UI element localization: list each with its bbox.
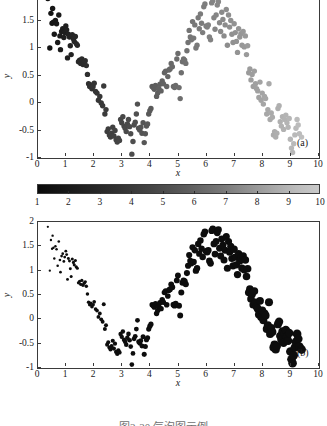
panel-a: 012345678910 -1-0.500.511.52 x y (a) <box>0 0 327 180</box>
x-tick-label: 7 <box>231 369 236 379</box>
x-tick-label: 6 <box>203 159 208 169</box>
panel-a-plot-area <box>37 0 320 159</box>
x-tick-label: 2 <box>91 369 96 379</box>
colorbar-tick-label: 2 <box>66 197 71 207</box>
x-tick-label: 9 <box>288 369 293 379</box>
y-tick-label: -1 <box>13 362 34 372</box>
panel-b-plot-area <box>37 221 320 369</box>
colorbar-tick-mark <box>131 191 132 194</box>
colorbar-tick-label: 6 <box>192 197 197 207</box>
x-tick-mark <box>234 363 235 366</box>
colorbar-tick-label: 10 <box>315 197 325 207</box>
panel-b-x-axis-title: x <box>176 377 180 388</box>
y-tick-label: 0 <box>13 97 34 107</box>
x-tick-mark <box>37 363 38 366</box>
x-tick-label: 10 <box>313 159 323 169</box>
y-tick-label: -0.5 <box>13 125 34 135</box>
x-tick-mark <box>178 153 179 156</box>
x-tick-mark <box>65 363 66 366</box>
colorbar-gradient <box>37 184 320 194</box>
x-tick-mark <box>93 363 94 366</box>
bubble-chart-figure: 012345678910 -1-0.500.511.52 x y (a) 123… <box>0 0 327 426</box>
figure-caption: 图2-20 气泡图示例 <box>0 418 327 426</box>
colorbar-tick-mark <box>163 191 164 194</box>
y-tick-label: 1 <box>13 42 34 52</box>
x-tick-mark <box>37 153 38 156</box>
y-tick-mark <box>38 343 41 344</box>
x-tick-mark <box>318 363 319 366</box>
x-tick-label: 2 <box>91 159 96 169</box>
y-tick-mark <box>38 294 41 295</box>
panel-b: 012345678910 -1-0.500.511.52 x y (b) <box>0 210 327 390</box>
x-tick-label: 0 <box>35 159 40 169</box>
x-tick-label: 3 <box>119 369 124 379</box>
y-tick-mark <box>38 47 41 48</box>
colorbar-tick-mark <box>226 191 227 194</box>
colorbar-tick-label: 9 <box>286 197 291 207</box>
x-tick-mark <box>149 363 150 366</box>
x-tick-mark <box>149 153 150 156</box>
x-tick-label: 1 <box>63 159 68 169</box>
colorbar-tick-mark <box>257 191 258 194</box>
y-tick-label: 1 <box>13 265 34 275</box>
x-tick-label: 10 <box>313 369 323 379</box>
x-tick-label: 6 <box>203 369 208 379</box>
panel-a-scatter-layer <box>38 0 319 158</box>
y-tick-label: 0 <box>13 313 34 323</box>
x-tick-mark <box>65 153 66 156</box>
x-tick-mark <box>206 363 207 366</box>
y-tick-mark <box>38 318 41 319</box>
x-tick-mark <box>121 363 122 366</box>
y-tick-mark <box>38 130 41 131</box>
x-tick-label: 4 <box>147 159 152 169</box>
x-tick-mark <box>262 363 263 366</box>
y-tick-label: -0.5 <box>13 338 34 348</box>
x-tick-mark <box>93 153 94 156</box>
x-tick-mark <box>318 153 319 156</box>
x-tick-mark <box>121 153 122 156</box>
x-tick-mark <box>290 363 291 366</box>
colorbar-tick-mark <box>68 191 69 194</box>
x-tick-label: 8 <box>259 369 264 379</box>
y-tick-mark <box>38 367 41 368</box>
x-tick-mark <box>262 153 263 156</box>
x-tick-mark <box>206 153 207 156</box>
colorbar-group: 12345678910 <box>0 180 327 210</box>
y-tick-mark <box>38 270 41 271</box>
x-tick-label: 1 <box>63 369 68 379</box>
x-tick-label: 4 <box>147 369 152 379</box>
y-tick-mark <box>38 245 41 246</box>
x-tick-mark <box>290 153 291 156</box>
y-tick-mark <box>38 75 41 76</box>
colorbar-tick-mark <box>100 191 101 194</box>
x-tick-mark <box>234 153 235 156</box>
colorbar-tick-label: 8 <box>255 197 260 207</box>
y-tick-mark <box>38 221 41 222</box>
x-tick-label: 3 <box>119 159 124 169</box>
x-tick-label: 8 <box>259 159 264 169</box>
colorbar-tick-label: 7 <box>223 197 228 207</box>
x-tick-label: 9 <box>288 159 293 169</box>
colorbar-tick-label: 5 <box>160 197 165 207</box>
y-tick-label: 0.5 <box>13 289 34 299</box>
y-tick-label: 2 <box>13 216 34 226</box>
y-tick-mark <box>38 102 41 103</box>
panel-a-x-axis-title: x <box>176 167 180 178</box>
panel-b-label: (b) <box>297 347 309 358</box>
colorbar-tick-label: 1 <box>35 197 40 207</box>
panel-a-label: (a) <box>297 137 308 148</box>
colorbar-tick-label: 4 <box>129 197 134 207</box>
colorbar-tick-mark <box>194 191 195 194</box>
y-tick-label: -1 <box>13 152 34 162</box>
panel-a-y-axis-title: y <box>1 70 12 82</box>
x-tick-label: 7 <box>231 159 236 169</box>
y-tick-label: 1.5 <box>13 15 34 25</box>
x-tick-label: 0 <box>35 369 40 379</box>
panel-b-y-axis-title: y <box>1 289 12 301</box>
y-tick-label: 0.5 <box>13 70 34 80</box>
y-tick-label: 1.5 <box>13 240 34 250</box>
colorbar-tick-mark <box>289 191 290 194</box>
panel-b-scatter-layer <box>38 222 319 368</box>
y-tick-mark <box>38 157 41 158</box>
colorbar-tick-label: 3 <box>98 197 103 207</box>
